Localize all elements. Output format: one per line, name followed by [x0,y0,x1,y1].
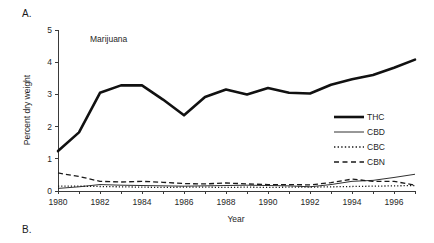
y-tick-label: 4 [47,57,52,67]
x-tick-label: 1996 [385,197,404,207]
legend-label-thc: THC [367,112,384,122]
series-line-cbc [58,186,415,188]
y-tick-label: 0 [47,186,52,196]
y-tick-label: 2 [47,122,52,132]
line-chart: 012345 198019821984198619881990199219941… [0,0,434,243]
x-tick-label: 1994 [343,197,362,207]
y-axis-ticks: 012345 [47,25,58,196]
legend-label-cbc: CBC [367,142,385,152]
x-axis-title: Year [227,214,244,224]
x-tick-label: 1982 [91,197,110,207]
x-tick-label: 1980 [49,197,68,207]
y-axis-title: Percent dry weight [22,74,32,145]
series-line-thc [58,60,415,151]
legend-label-cbd: CBD [367,127,385,137]
x-axis-ticks: 198019821984198619881990199219941996 [49,191,415,207]
figure-container: A. B. 012345 198019821984198619881990199… [0,0,434,243]
plot-title-annotation: Marijuana [90,34,128,44]
series-line-cbd [58,174,415,188]
x-tick-label: 1986 [175,197,194,207]
chart-series-group [58,60,415,189]
x-tick-label: 1990 [259,197,278,207]
legend-label-cbn: CBN [367,157,385,167]
x-tick-label: 1988 [217,197,236,207]
x-tick-label: 1984 [133,197,152,207]
y-tick-label: 3 [47,89,52,99]
y-tick-label: 5 [47,25,52,35]
chart-legend: THCCBDCBCCBN [334,112,385,167]
y-tick-label: 1 [47,154,52,164]
x-tick-label: 1992 [301,197,320,207]
series-line-cbn [58,173,415,185]
